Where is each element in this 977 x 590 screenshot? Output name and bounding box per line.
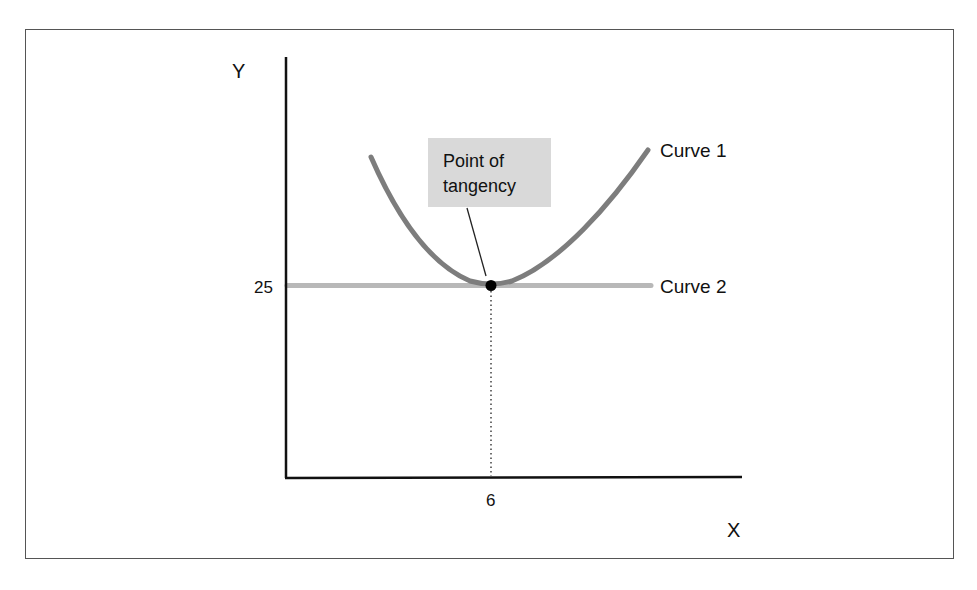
curve-1-label: Curve 1 (660, 140, 727, 161)
curve-2-label: Curve 2 (660, 276, 727, 297)
annotation-text-line2: tangency (443, 176, 516, 196)
annotation-text-line1: Point of (443, 151, 505, 171)
chart-canvas: Point of tangency Y X 25 6 Curve 1 Curve… (0, 0, 977, 590)
tangency-point-marker (486, 280, 497, 291)
y-tick-label-25: 25 (254, 278, 273, 297)
annotation-box (428, 138, 551, 207)
y-axis-label: Y (232, 60, 245, 82)
x-axis-label: X (727, 519, 740, 541)
x-axis (285, 477, 742, 478)
figure: Point of tangency Y X 25 6 Curve 1 Curve… (0, 0, 977, 590)
annotation-leader-line (467, 208, 486, 276)
x-tick-label-6: 6 (486, 491, 495, 510)
